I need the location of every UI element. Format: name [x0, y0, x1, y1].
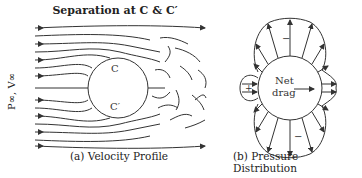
left-arrowheads: [38, 25, 44, 149]
negative-sign-bottom: −: [294, 131, 302, 142]
pressure-distribution-panel: Net drag + − −: [240, 18, 336, 158]
point-c-prime-label: C′: [110, 101, 121, 112]
velocity-profile-panel: C C′: [35, 25, 206, 149]
drag-label: drag: [272, 87, 296, 98]
net-label: Net: [275, 75, 294, 86]
positive-sign: +: [245, 83, 253, 93]
caption-velocity-profile: (a) Velocity Profile: [70, 150, 168, 162]
point-c-label: C: [111, 63, 119, 74]
caption-pressure-distribution: (b) Pressure Distribution: [233, 150, 362, 174]
negative-sign-top: −: [282, 33, 290, 44]
